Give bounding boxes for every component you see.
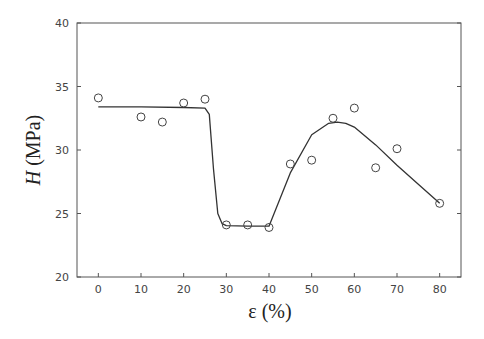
y-axis-title: H (MPa) xyxy=(22,115,45,187)
y-tick-label: 35 xyxy=(55,81,69,94)
x-tick-label: 10 xyxy=(134,283,148,296)
x-tick-label: 70 xyxy=(390,283,404,296)
x-tick-label: 0 xyxy=(95,283,102,296)
y-tick-label: 20 xyxy=(55,271,69,284)
data-point xyxy=(308,156,316,164)
chart: 010203040506070802025303540 ε (%) H (MPa… xyxy=(0,0,484,339)
data-point xyxy=(244,221,252,229)
data-point xyxy=(350,104,358,112)
data-point xyxy=(94,94,102,102)
x-tick-label: 20 xyxy=(177,283,191,296)
data-point xyxy=(286,160,294,168)
data-point xyxy=(201,95,209,103)
x-tick-label: 40 xyxy=(262,283,276,296)
data-points xyxy=(94,94,443,232)
x-tick-label: 60 xyxy=(347,283,361,296)
data-point xyxy=(180,99,188,107)
y-tick-label: 30 xyxy=(55,144,69,157)
y-tick-label: 40 xyxy=(55,17,69,30)
y-tick-label: 25 xyxy=(55,208,69,221)
data-point xyxy=(372,164,380,172)
plot-frame xyxy=(77,23,461,277)
x-tick-label: 30 xyxy=(219,283,233,296)
data-point xyxy=(137,113,145,121)
data-point xyxy=(158,118,166,126)
x-tick-label: 50 xyxy=(305,283,319,296)
fit-curve xyxy=(98,107,439,226)
data-point xyxy=(436,199,444,207)
axis-ticks: 010203040506070802025303540 xyxy=(55,17,461,296)
data-point xyxy=(393,145,401,153)
data-point xyxy=(329,114,337,122)
x-axis-title: ε (%) xyxy=(248,300,291,323)
x-tick-label: 80 xyxy=(433,283,447,296)
